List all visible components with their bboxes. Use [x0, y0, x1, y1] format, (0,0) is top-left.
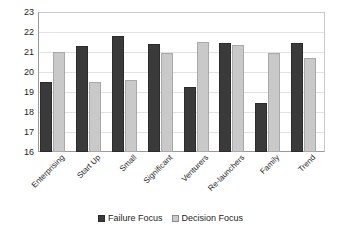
- y-axis-tick-label: 21: [4, 48, 34, 57]
- legend-swatch-icon: [98, 215, 105, 222]
- y-axis-tick-label: 17: [4, 128, 34, 137]
- y-axis-tick-label: 16: [4, 148, 34, 157]
- y-axis: 1617181920212223: [0, 12, 34, 152]
- gridline: [39, 132, 324, 133]
- gridline: [39, 112, 324, 113]
- legend-label: Decision Focus: [182, 213, 244, 223]
- bar-chart: 1617181920212223 EnterprisingStart UpSma…: [0, 0, 341, 238]
- gridline: [39, 92, 324, 93]
- legend-label: Failure Focus: [108, 213, 163, 223]
- y-axis-tick-label: 18: [4, 108, 34, 117]
- y-axis-tick-label: 23: [4, 8, 34, 17]
- gridline: [39, 52, 324, 53]
- plot-area: [38, 12, 325, 152]
- gridline: [39, 32, 324, 33]
- legend-item[interactable]: Decision Focus: [172, 213, 244, 223]
- chart-legend: Failure FocusDecision Focus: [0, 213, 341, 223]
- y-axis-tick-label: 22: [4, 28, 34, 37]
- gridline: [39, 72, 324, 73]
- y-axis-tick-label: 20: [4, 68, 34, 77]
- x-axis-category-labels: EnterprisingStart UpSmallSignificantVent…: [38, 153, 325, 211]
- y-axis-tick-label: 19: [4, 88, 34, 97]
- legend-swatch-icon: [172, 215, 179, 222]
- legend-item[interactable]: Failure Focus: [98, 213, 163, 223]
